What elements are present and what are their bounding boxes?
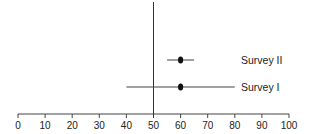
x-tick-label: 50 [148,120,160,131]
forest-plot: 0102030405060708090100 Survey IISurvey I [0,0,313,134]
point-estimate [178,83,183,90]
x-tick-label: 30 [94,120,106,131]
x-tick-label: 80 [229,120,241,131]
series-row: Survey I [126,81,279,93]
x-tick-label: 70 [202,120,214,131]
x-tick-label: 10 [40,120,52,131]
x-axis-ticks: 0102030405060708090100 [15,114,298,131]
x-tick-label: 20 [67,120,79,131]
series-label: Survey II [241,54,282,66]
x-tick-label: 60 [175,120,187,131]
x-tick-label: 40 [121,120,133,131]
point-estimate [178,56,183,63]
x-tick-label: 100 [281,120,298,131]
series-rows: Survey IISurvey I [126,54,282,93]
series-row: Survey II [167,54,282,66]
x-tick-label: 90 [256,120,268,131]
series-label: Survey I [241,81,280,93]
x-tick-label: 0 [15,120,21,131]
